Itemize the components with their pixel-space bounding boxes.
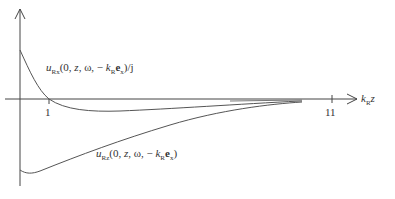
curve-label-u-rz: uRz(0, z, ω, − kRex) <box>96 147 177 162</box>
x-tick-label-11: 11 <box>325 106 336 118</box>
x-tick-label-1: 1 <box>45 106 51 118</box>
curve-end-bundle <box>230 100 302 101</box>
x-axis-label: kRz <box>361 92 375 107</box>
curve-u-rx <box>20 50 302 111</box>
plot-canvas <box>0 0 395 199</box>
curve-label-u-rx: uRx(0, z, ω, − kRex)/j <box>46 61 134 76</box>
curve-u-rz <box>20 102 302 173</box>
